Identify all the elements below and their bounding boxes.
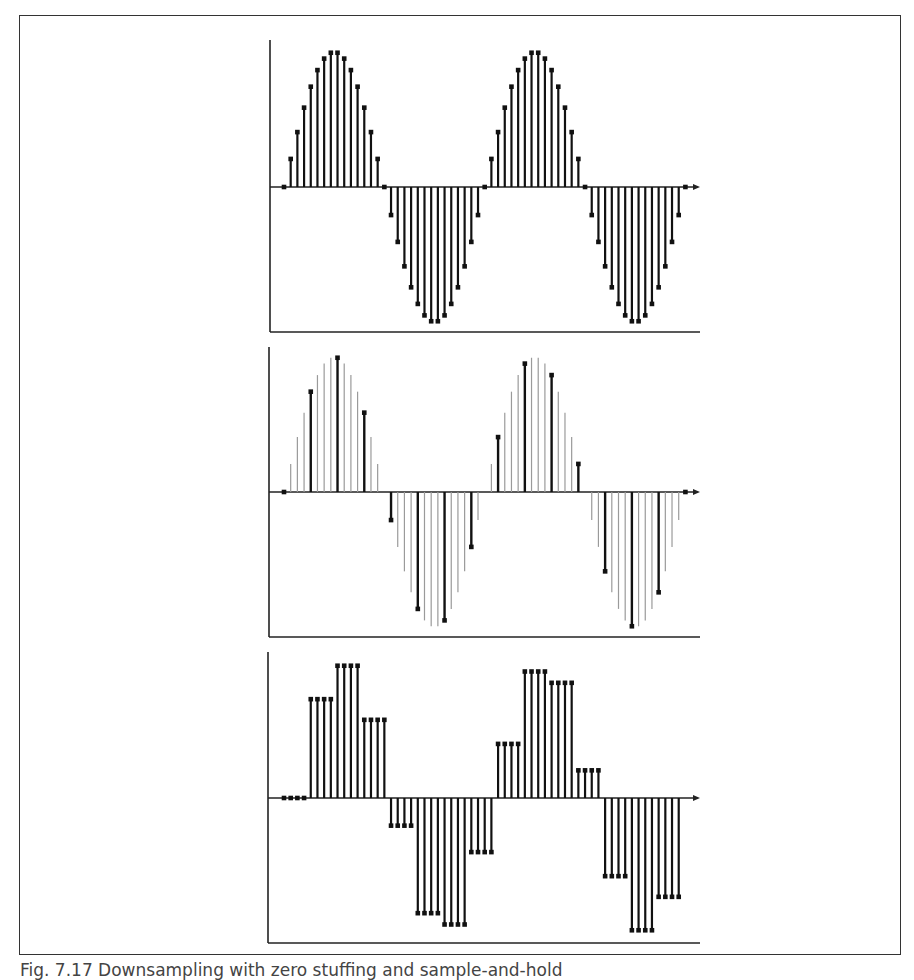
sample-stem-marker: [563, 105, 568, 110]
sample-stem-marker: [529, 50, 534, 55]
held-sample-stem-marker: [516, 742, 521, 747]
held-sample-stem-marker: [583, 768, 588, 773]
sample-stem-marker: [342, 56, 347, 61]
sample-stem-marker: [636, 319, 641, 324]
kept-sample-stem-marker: [308, 389, 313, 394]
held-sample-stem-marker: [315, 697, 320, 702]
held-sample-stem-marker: [456, 922, 461, 927]
sample-stem-marker: [523, 56, 528, 61]
sample-stem-marker: [436, 319, 441, 324]
kept-sample-stem-marker: [469, 545, 474, 550]
axis-arrow-icon: [693, 795, 700, 801]
held-sample-stem-marker: [355, 663, 360, 668]
held-sample-stem-marker: [389, 823, 394, 828]
sample-stem-marker: [288, 157, 293, 162]
held-sample-stem-marker: [623, 874, 628, 879]
sample-stem-marker: [583, 185, 588, 190]
held-sample-stem-marker: [282, 796, 287, 801]
held-sample-stem-marker: [342, 663, 347, 668]
held-sample-stem-marker: [382, 718, 387, 723]
held-sample-stem-marker: [502, 742, 507, 747]
sample-stem-marker: [663, 264, 668, 269]
sample-stem-marker: [476, 213, 481, 218]
held-sample-stem-marker: [375, 718, 380, 723]
held-sample-stem-marker: [302, 796, 307, 801]
held-sample-stem-marker: [596, 768, 601, 773]
sample-stem-marker: [402, 264, 407, 269]
sample-stem-marker: [623, 313, 628, 318]
held-sample-stem-marker: [349, 663, 354, 668]
held-sample-stem-marker: [322, 697, 327, 702]
sample-stem-marker: [416, 302, 421, 307]
sample-stem-marker: [329, 50, 334, 55]
held-sample-stem-marker: [335, 663, 340, 668]
held-sample-stem-marker: [549, 681, 554, 686]
sample-stem-marker: [556, 84, 561, 89]
sample-stem-marker: [516, 68, 521, 73]
kept-sample-stem-marker: [603, 569, 608, 574]
sample-stem-marker: [676, 213, 681, 218]
held-sample-stem-marker: [489, 850, 494, 855]
sample-stem-marker: [362, 105, 367, 110]
held-sample-stem-marker: [630, 928, 635, 933]
sample-stem-marker: [395, 240, 400, 245]
sample-stem-marker: [308, 84, 313, 89]
sample-stem-marker: [589, 213, 594, 218]
held-sample-stem-marker: [442, 922, 447, 927]
held-sample-stem-marker: [656, 895, 661, 900]
sample-stem-marker: [683, 185, 688, 190]
sample-stem-marker: [502, 105, 507, 110]
held-sample-stem-marker: [402, 823, 407, 828]
sample-stem-marker: [355, 84, 360, 89]
sample-stem-marker: [496, 130, 501, 135]
held-sample-stem-marker: [603, 874, 608, 879]
sample-stem-marker: [449, 302, 454, 307]
sample-stem-marker: [643, 313, 648, 318]
kept-sample-stem-marker: [389, 518, 394, 523]
kept-sample-stem-marker: [496, 435, 501, 440]
sample-stem-marker: [335, 50, 340, 55]
held-sample-stem-marker: [369, 718, 374, 723]
kept-sample-stem-marker: [416, 607, 421, 612]
held-sample-stem-marker: [362, 718, 367, 723]
held-sample-stem-marker: [409, 823, 414, 828]
sample-stem-marker: [429, 319, 434, 324]
sample-stem-marker: [543, 56, 548, 61]
held-sample-stem-marker: [523, 669, 528, 674]
sample-stem-marker: [603, 264, 608, 269]
kept-sample-stem-marker: [282, 490, 287, 495]
sample-stem-marker: [616, 302, 621, 307]
held-sample-stem-marker: [569, 681, 574, 686]
held-sample-stem-marker: [589, 768, 594, 773]
sample-stem-marker: [442, 313, 447, 318]
sample-stem-marker: [509, 84, 514, 89]
sample-stem-marker: [389, 213, 394, 218]
sample-stem-marker: [670, 240, 675, 245]
held-sample-stem-marker: [308, 697, 313, 702]
held-sample-stem-marker: [395, 823, 400, 828]
held-sample-stem-marker: [563, 681, 568, 686]
held-sample-stem-marker: [670, 895, 675, 900]
held-sample-stem-marker: [543, 669, 548, 674]
held-sample-stem-marker: [422, 911, 427, 916]
sample-stem-marker: [630, 319, 635, 324]
held-sample-stem-marker: [329, 697, 334, 702]
held-sample-stem-marker: [496, 742, 501, 747]
held-sample-stem-marker: [650, 928, 655, 933]
held-sample-stem-marker: [476, 850, 481, 855]
sample-stem-marker: [650, 302, 655, 307]
sample-stem-marker: [456, 285, 461, 290]
held-sample-stem-marker: [663, 895, 668, 900]
kept-sample-stem-marker: [656, 590, 661, 595]
held-sample-stem-marker: [295, 796, 300, 801]
sample-stem-marker: [596, 240, 601, 245]
held-sample-stem-marker: [676, 895, 681, 900]
sample-stem-marker: [369, 130, 374, 135]
kept-sample-stem-marker: [335, 355, 340, 360]
sample-stem-marker: [536, 50, 541, 55]
kept-sample-stem-marker: [576, 462, 581, 467]
held-sample-stem-marker: [469, 850, 474, 855]
sample-stem-marker: [576, 157, 581, 162]
sample-stem-marker: [489, 157, 494, 162]
